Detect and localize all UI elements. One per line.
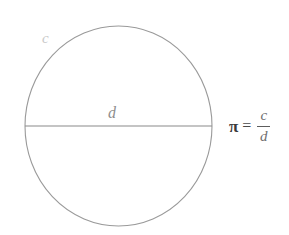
pi-symbol: π <box>229 118 238 135</box>
equals-sign: = <box>242 118 251 135</box>
pi-circle-figure: c d π = c d <box>0 0 289 235</box>
fraction-denominator: d <box>259 129 269 145</box>
fraction-c-over-d: c d <box>257 108 270 145</box>
fraction-numerator: c <box>260 108 269 124</box>
diameter-label: d <box>108 105 116 121</box>
fraction-bar <box>257 126 270 127</box>
pi-equation: π = c d <box>229 108 270 145</box>
circumference-label: c <box>42 31 49 46</box>
